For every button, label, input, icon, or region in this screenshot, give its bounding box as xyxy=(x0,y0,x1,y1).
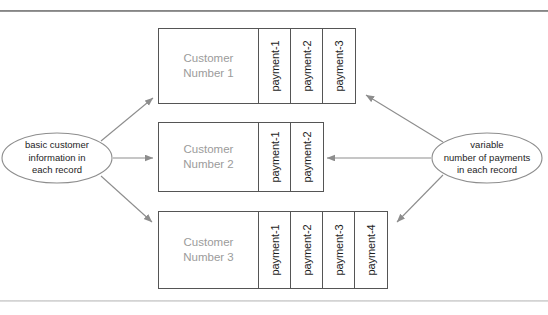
payment-cell-3-1: payment-1 xyxy=(259,212,291,288)
left-ellipse-line-3: each record xyxy=(2,164,112,177)
arrow-left-to-record-1 xyxy=(101,98,153,141)
payment-label-3-4: payment-4 xyxy=(365,224,377,275)
payment-label-2-1: payment-1 xyxy=(269,131,281,182)
record-row-2: Customer Number 2 payment-1 payment-2 xyxy=(158,122,324,192)
payment-cell-1-1: payment-1 xyxy=(259,29,291,103)
top-divider-rule xyxy=(0,10,548,12)
payment-label-1-3: payment-3 xyxy=(333,40,345,91)
customer-cell-3: Customer Number 3 xyxy=(159,212,259,288)
left-ellipse-label: basic customer information in each recor… xyxy=(2,139,112,177)
arrow-right-to-record-1 xyxy=(366,95,443,142)
payment-label-3-1: payment-1 xyxy=(269,224,281,275)
payment-cell-1-2: payment-2 xyxy=(291,29,323,103)
payment-cell-3-4: payment-4 xyxy=(355,212,387,288)
customer-cell-2-line-1: Customer xyxy=(184,142,234,157)
right-ellipse-line-1: variable xyxy=(430,139,544,152)
right-ellipse-line-2: number of payments xyxy=(430,152,544,165)
bottom-divider-rule xyxy=(0,300,548,302)
payment-cell-3-2: payment-2 xyxy=(291,212,323,288)
customer-cell-1-line-2: Number 1 xyxy=(183,66,234,81)
payment-cell-2-1: payment-1 xyxy=(259,123,291,191)
customer-cell-3-line-2: Number 3 xyxy=(183,250,234,265)
payment-label-3-3: payment-3 xyxy=(333,224,345,275)
diagram-canvas: basic customer information in each recor… xyxy=(0,0,548,315)
left-ellipse-line-2: information in xyxy=(2,152,112,165)
arrow-right-to-record-3 xyxy=(397,175,443,222)
customer-cell-3-line-1: Customer xyxy=(184,235,234,250)
payment-label-1-1: payment-1 xyxy=(269,40,281,91)
arrow-left-to-record-3 xyxy=(101,176,152,222)
payment-cell-1-3: payment-3 xyxy=(323,29,355,103)
payment-label-1-2: payment-2 xyxy=(301,40,313,91)
customer-cell-1-line-1: Customer xyxy=(184,51,234,66)
customer-cell-2-line-2: Number 2 xyxy=(183,157,234,172)
customer-cell-2: Customer Number 2 xyxy=(159,123,259,191)
right-ellipse-line-3: in each record xyxy=(430,164,544,177)
payment-label-3-2: payment-2 xyxy=(301,224,313,275)
payment-cell-3-3: payment-3 xyxy=(323,212,355,288)
record-row-3: Customer Number 3 payment-1 payment-2 pa… xyxy=(158,211,388,289)
record-row-1: Customer Number 1 payment-1 payment-2 pa… xyxy=(158,28,356,104)
right-ellipse-label: variable number of payments in each reco… xyxy=(430,139,544,177)
payment-label-2-2: payment-2 xyxy=(301,131,313,182)
left-ellipse-line-1: basic customer xyxy=(2,139,112,152)
payment-cell-2-2: payment-2 xyxy=(291,123,323,191)
customer-cell-1: Customer Number 1 xyxy=(159,29,259,103)
